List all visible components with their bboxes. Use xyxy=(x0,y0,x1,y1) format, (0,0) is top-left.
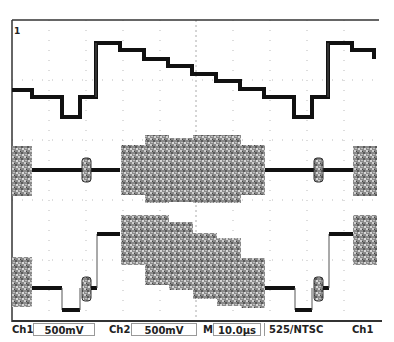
waveform-plot: 1 xyxy=(0,0,394,342)
oscilloscope-display: 1 xyxy=(0,0,394,342)
timebase-value: 10.0µs xyxy=(213,323,261,336)
status-bar: Ch1 500mV Ch2 500mV M 10.0µs 525/NTSC Ch… xyxy=(10,323,382,336)
ch1-label: Ch1 xyxy=(12,323,33,336)
trigger-marker: 1 xyxy=(14,26,20,36)
ch2-composite-trace xyxy=(12,215,377,310)
ch1-scale: 500mV xyxy=(33,323,95,336)
trigger-mode: 525/NTSC xyxy=(264,323,323,336)
ch2-scale: 500mV xyxy=(131,323,197,336)
ch1-chroma-trace xyxy=(12,135,377,203)
trigger-source: Ch1 xyxy=(352,323,373,336)
ch2-label: Ch2 xyxy=(109,323,130,336)
timebase-label: M xyxy=(203,323,213,336)
